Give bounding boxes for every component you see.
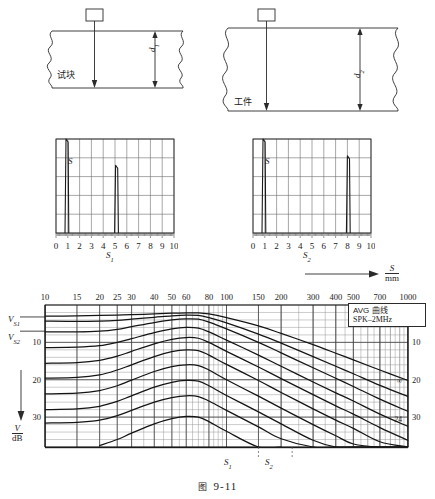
avg-ytick-label-right: 30 (412, 412, 421, 422)
distance-axis-symbol: S (385, 264, 399, 273)
marker-bottom-s1: S1 (224, 451, 232, 470)
avg-xtick-label: 200 (275, 292, 288, 302)
probe-icon (86, 9, 103, 21)
avg-curve-end-label: 24 (395, 415, 403, 424)
marker-bottom-s2: S2 (265, 451, 273, 470)
avg-ytick-label-right: 10 (412, 337, 421, 347)
legend-item-probe: SPK–2MHz (353, 315, 425, 324)
scope-tick-label: 0 (54, 241, 59, 251)
avg-xtick-label: 60 (182, 292, 191, 302)
legend-item-avg: AVG 曲线 (353, 306, 425, 315)
depth-label-d1-text: d (147, 48, 157, 53)
scope-tick-label: 10 (170, 241, 179, 251)
avg-xtick-label: 500 (347, 292, 360, 302)
scope-tick-label: 9 (357, 241, 362, 251)
scope-tick-label: 7 (333, 241, 338, 251)
scope-tick-label: 8 (148, 241, 153, 251)
avg-xtick-label: 15 (73, 292, 82, 302)
avg-curve-end-label: ∞ (397, 376, 402, 385)
scope-tick-label: 2 (77, 241, 82, 251)
figure-caption: 图9-11 (0, 480, 435, 493)
scope-tick-label: 3 (89, 241, 94, 251)
scope-tick-label: 1 (263, 241, 268, 251)
specimen-diagrams (0, 0, 435, 122)
gain-axis-symbol: V (12, 424, 23, 433)
avg-ytick-label-left: 20 (33, 375, 42, 385)
scope-tick-label: 6 (322, 241, 327, 251)
avg-xtick-label: 700 (374, 292, 387, 302)
distance-axis-unit: S mm (385, 264, 399, 284)
scope-tick-label: 0 (251, 241, 256, 251)
distance-axis-arrow (305, 268, 380, 280)
avg-ytick-label-left: 30 (33, 412, 42, 422)
avg-xtick-label: 30 (127, 292, 136, 302)
gain-axis-label: V dB (12, 424, 23, 444)
scope-tick-label: 6 (125, 241, 130, 251)
avg-legend: AVG 曲线 SPK–2MHz (348, 303, 426, 327)
avg-xtick-label: 25 (113, 292, 122, 302)
gain-axis-arrow (16, 370, 26, 422)
avg-xtick-label: 40 (150, 292, 159, 302)
depth-label-d2-sub: 2 (358, 70, 365, 73)
specimen-label-workpiece: 工件 (234, 95, 252, 108)
avg-xtick-label: 1000 (400, 292, 417, 302)
depth-label-d2: d2 (346, 70, 365, 78)
marker-vs1: VS1 (8, 308, 20, 327)
scope-tick-label: 3 (286, 241, 291, 251)
avg-xtick-label: 100 (220, 292, 233, 302)
scope-s1-axis-label: S1 (106, 244, 114, 263)
scope-chart-s1: 012345678910 (48, 135, 178, 260)
avg-ytick-label-left: 10 (33, 337, 42, 347)
scope-tick-label: 9 (160, 241, 165, 251)
scope-chart-s2: 012345678910 (245, 135, 375, 260)
figure-caption-number: 9-11 (214, 480, 238, 492)
distance-axis-unit-text: mm (385, 274, 399, 283)
depth-label-d2-text: d (352, 74, 362, 79)
avg-xtick-label: 20 (95, 292, 104, 302)
figure-caption-prefix: 图 (198, 482, 208, 492)
specimen-label-test-block: 试块 (57, 68, 75, 81)
avg-xtick-label: 10 (41, 292, 50, 302)
scope-tick-label: 7 (136, 241, 141, 251)
avg-xtick-label: 400 (329, 292, 342, 302)
scope-tick-label: 1 (66, 241, 71, 251)
depth-label-d1: d1 (141, 44, 160, 52)
scope-tick-label: 10 (367, 241, 376, 251)
scope-s2-axis-label: S2 (303, 244, 311, 263)
avg-xtick-label: 80 (205, 292, 214, 302)
avg-ytick-label-right: 20 (412, 375, 421, 385)
scope-tick-label: 8 (345, 241, 350, 251)
marker-vs2: VS2 (8, 326, 20, 345)
depth-label-d1-sub: 1 (153, 44, 160, 47)
probe-icon (258, 9, 275, 21)
scope-s1-signal-label: S (68, 156, 73, 166)
avg-xtick-label: 50 (168, 292, 177, 302)
gain-axis-unit-text: dB (12, 434, 23, 443)
avg-xtick-label: 300 (307, 292, 320, 302)
avg-xtick-label: 150 (252, 292, 265, 302)
scope-s2-signal-label: S (265, 156, 270, 166)
scope-tick-label: 2 (274, 241, 279, 251)
